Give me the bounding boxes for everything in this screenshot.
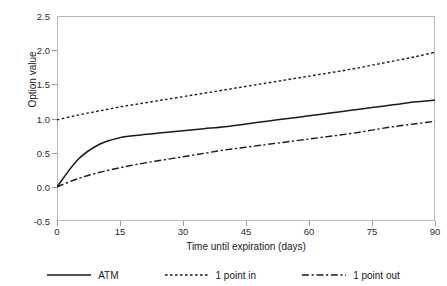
legend-label-atm: ATM	[98, 270, 118, 281]
y-axis-label: Option value	[27, 0, 38, 160]
x-tick-mark	[309, 221, 310, 226]
x-tick-mark	[372, 221, 373, 226]
x-tick-label: 30	[163, 226, 203, 237]
legend-label-1-point-in: 1 point in	[216, 270, 257, 281]
x-tick-label: 60	[289, 226, 329, 237]
x-tick-label: 15	[100, 226, 140, 237]
x-tick-label: 0	[37, 226, 77, 237]
legend-label-1-point-out: 1 point out	[353, 270, 400, 281]
x-tick-label: 45	[226, 226, 266, 237]
legend-swatch-atm	[47, 269, 91, 281]
series-line-1-point-in	[57, 52, 435, 120]
x-tick-label: 90	[415, 226, 447, 237]
series-line-atm	[57, 100, 435, 187]
series-line-1-point-out	[57, 121, 435, 187]
legend-swatch-1-point-out	[302, 269, 346, 281]
x-tick-mark	[183, 221, 184, 226]
legend-entry-1-point-out[interactable]: 1 point out	[302, 269, 400, 281]
x-axis-label: Time until expiration (days)	[57, 241, 435, 252]
legend-entry-atm[interactable]: ATM	[47, 269, 118, 281]
chart-legend: ATM1 point in1 point out	[0, 264, 447, 286]
x-tick-mark	[435, 221, 436, 226]
legend-swatch-1-point-in	[165, 269, 209, 281]
y-tick-label: 0.0	[0, 181, 57, 192]
x-tick-mark	[246, 221, 247, 226]
x-tick-mark	[57, 221, 58, 226]
series-curves	[57, 16, 435, 221]
legend-entry-1-point-in[interactable]: 1 point in	[165, 269, 257, 281]
x-tick-mark	[120, 221, 121, 226]
option-value-chart: 2.52.01.51.00.50.0-0.5 0153045607590 Tim…	[0, 0, 447, 286]
y-tick-label: -0.5	[0, 216, 57, 227]
x-tick-label: 75	[352, 226, 392, 237]
